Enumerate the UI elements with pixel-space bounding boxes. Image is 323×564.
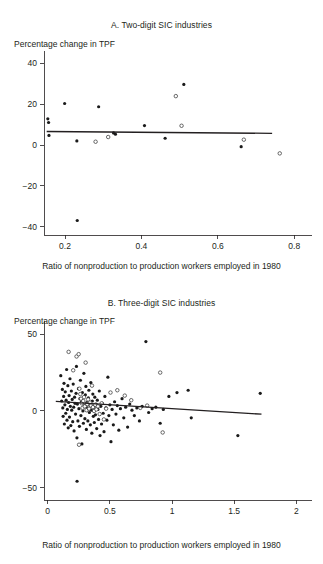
data-point-filled [182, 83, 185, 86]
panel-b-chart: B. Three-digit SIC industries Percentage… [0, 282, 323, 564]
data-point-filled [76, 219, 79, 222]
data-point-open [106, 135, 110, 139]
data-point-filled [72, 383, 75, 386]
data-point-open [174, 94, 178, 98]
data-point-filled [130, 409, 133, 412]
panel-b-y-tick-label: −50 [23, 483, 38, 493]
panel-b-series-open [67, 350, 165, 446]
data-point-filled [138, 419, 141, 422]
data-point-filled [240, 145, 243, 148]
data-point-filled [65, 419, 68, 422]
data-point-filled [113, 400, 116, 403]
data-point-filled [61, 406, 64, 409]
data-point-filled [47, 121, 50, 124]
panel-a-x-tick-label: 0.2 [59, 241, 71, 251]
panel-a-y-tick-label: 0 [32, 140, 37, 150]
panel-b-plot-area: −5005000.511.52 [0, 282, 323, 542]
data-point-filled [75, 436, 78, 439]
data-point-filled [175, 391, 178, 394]
data-point-open [77, 443, 81, 447]
data-point-filled [120, 397, 123, 400]
data-point-filled [66, 408, 69, 411]
data-point-filled [128, 402, 131, 405]
data-point-open [129, 398, 133, 402]
data-point-filled [64, 390, 67, 393]
data-point-open [158, 371, 162, 375]
data-point-open [94, 140, 98, 144]
data-point-filled [100, 422, 103, 425]
panel-b-x-tick-label: 0.5 [104, 506, 116, 516]
data-point-open [82, 399, 86, 403]
panel-b-x-tick-label: 1 [170, 506, 175, 516]
data-point-filled [75, 365, 78, 368]
panel-b-y-tick-label: 0 [32, 406, 37, 416]
data-point-filled [46, 117, 49, 120]
data-point-filled [71, 420, 74, 423]
data-point-filled [74, 412, 77, 415]
data-point-open [104, 407, 108, 411]
panel-a-y-tick-label: −40 [23, 222, 38, 232]
data-point-filled [64, 412, 67, 415]
data-point-filled [190, 416, 193, 419]
panel-a-series-open [94, 94, 282, 155]
data-point-open [102, 418, 106, 422]
panel-a-regression-line [47, 132, 272, 134]
data-point-filled [69, 405, 72, 408]
data-point-open [67, 350, 71, 354]
data-point-open [78, 387, 82, 391]
data-point-open [242, 138, 246, 142]
data-point-filled [68, 377, 71, 380]
panel-b-x-tick-label: 0 [45, 506, 50, 516]
data-point-filled [97, 105, 100, 108]
data-point-filled [164, 137, 167, 140]
data-point-open [82, 395, 86, 399]
data-point-filled [63, 102, 66, 105]
panel-b-x-tick-label: 2 [294, 506, 299, 516]
data-point-filled [66, 384, 69, 387]
panel-a-x-tick-label: 0.4 [136, 241, 148, 251]
data-point-filled [89, 423, 92, 426]
data-point-filled [109, 440, 112, 443]
panel-a-chart: A. Two-digit SIC industries Percentage c… [0, 0, 323, 282]
data-point-filled [93, 396, 96, 399]
data-point-filled [74, 392, 77, 395]
panel-b-y-tick-label: 50 [28, 329, 38, 339]
data-point-filled [91, 392, 94, 395]
data-point-filled [143, 124, 146, 127]
data-point-filled [68, 416, 71, 419]
data-point-filled [133, 414, 136, 417]
data-point-filled [236, 434, 239, 437]
data-point-filled [126, 425, 129, 428]
data-point-open [123, 394, 127, 398]
data-point-open [77, 352, 81, 356]
data-point-filled [59, 374, 62, 377]
data-point-filled [65, 368, 68, 371]
data-point-filled [98, 389, 101, 392]
data-point-filled [69, 424, 72, 427]
data-point-filled [122, 416, 125, 419]
data-point-filled [83, 417, 86, 420]
data-point-filled [71, 398, 74, 401]
data-point-filled [78, 425, 81, 428]
data-point-filled [87, 389, 90, 392]
data-point-filled [70, 409, 73, 412]
data-point-filled [117, 429, 120, 432]
data-point-filled [75, 139, 78, 142]
data-point-filled [72, 406, 75, 409]
data-point-filled [167, 395, 170, 398]
data-point-open [161, 431, 165, 435]
panel-b-x-axis-label: Ratio of nonproduction to production wor… [0, 540, 323, 550]
data-point-open [278, 152, 282, 156]
data-point-filled [106, 376, 109, 379]
data-point-filled [68, 394, 71, 397]
data-point-open [116, 388, 120, 392]
data-point-filled [111, 408, 114, 411]
panel-a-x-tick-label: 0.8 [288, 241, 300, 251]
data-point-open [90, 384, 94, 388]
data-point-filled [94, 413, 97, 416]
data-point-filled [102, 430, 105, 433]
data-point-filled [114, 133, 117, 136]
panel-a-x-axis-label: Ratio of nonproduction to production wor… [0, 261, 323, 271]
panel-b-svg: −5005000.511.52 [0, 282, 323, 542]
data-point-filled [97, 418, 100, 421]
